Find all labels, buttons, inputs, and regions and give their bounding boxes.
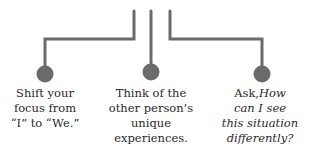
tip-line: differently? [208, 131, 309, 146]
right-node-dot [254, 66, 271, 83]
tip-line: Think of the [99, 86, 203, 101]
tips-diagram: Shift your focus from “I” to “We.” Think… [0, 0, 309, 161]
tip-line: other person’s [99, 101, 203, 116]
tip-prefix: Ask, [234, 86, 259, 100]
tip-line: Ask,How [208, 86, 309, 101]
tip-italic: How [259, 86, 286, 100]
center-node-dot [143, 64, 160, 81]
tip-line: “I” to “We.” [0, 116, 97, 131]
tip-other-person: Think of the other person’s unique exper… [99, 86, 203, 146]
tip-line: focus from [0, 101, 97, 116]
tip-line: this situation [208, 116, 309, 131]
tip-ask-question: Ask,How can I see this situation differe… [208, 86, 309, 146]
tip-line: unique [99, 116, 203, 131]
right-connector [170, 11, 262, 70]
tip-shift-focus: Shift your focus from “I” to “We.” [0, 86, 97, 131]
tip-line: experiences. [99, 131, 203, 146]
tip-line: Shift your [0, 86, 97, 101]
tip-line: can I see [208, 101, 309, 116]
left-node-dot [37, 66, 54, 83]
left-connector [45, 11, 134, 70]
